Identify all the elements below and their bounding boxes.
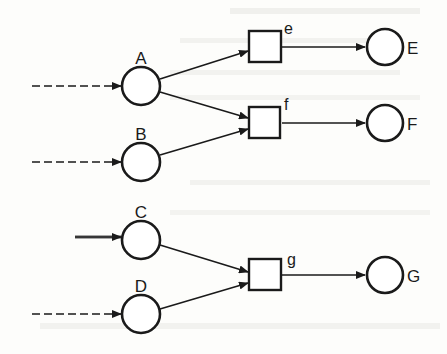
place-label-D: D xyxy=(135,277,147,296)
place-B: B xyxy=(122,125,160,181)
place-F: F xyxy=(367,105,417,141)
place-D: D xyxy=(122,277,160,333)
place-A: A xyxy=(122,49,160,105)
transition-g: g xyxy=(249,251,296,290)
transition-to-place-arcs xyxy=(282,47,365,275)
place-label-C: C xyxy=(135,203,147,222)
place-label-A: A xyxy=(135,49,147,68)
transitions: e f g xyxy=(249,20,296,290)
arc-C-g xyxy=(160,245,248,272)
arc-D-g xyxy=(160,283,248,309)
arc-B-f xyxy=(160,129,248,155)
place-label-B: B xyxy=(135,125,146,144)
place-E: E xyxy=(367,29,418,65)
place-label-G: G xyxy=(407,267,420,286)
transition-label-g: g xyxy=(287,251,296,268)
petri-net-diagram: A B C D E F G e xyxy=(0,0,447,354)
place-G: G xyxy=(367,257,420,293)
transition-f: f xyxy=(249,96,289,138)
place-C: C xyxy=(122,203,160,259)
place-label-F: F xyxy=(407,115,417,134)
input-arcs xyxy=(32,86,121,314)
transition-label-f: f xyxy=(284,96,289,113)
place-label-E: E xyxy=(407,39,418,58)
transition-label-e: e xyxy=(284,20,293,37)
